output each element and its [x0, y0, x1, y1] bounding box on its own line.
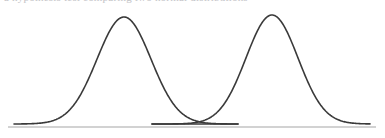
bell-curves-plot	[0, 0, 385, 138]
gaussian-curve-distribution-b	[152, 15, 370, 124]
baselines-group	[8, 124, 376, 127]
curves-group	[14, 15, 370, 124]
figure-canvas: a hypothesis test comparing two normal d…	[0, 0, 385, 138]
gaussian-curve-distribution-a	[14, 17, 238, 124]
